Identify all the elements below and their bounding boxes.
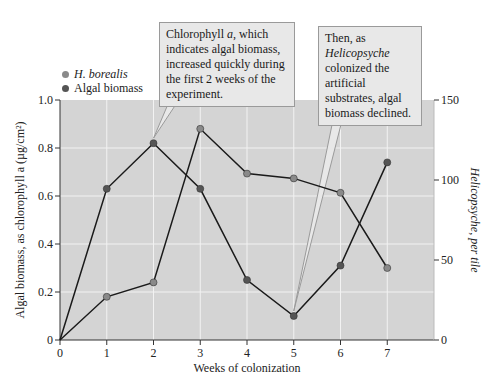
x-tick-label: 7 xyxy=(384,346,390,360)
y-tick-label-right: 0 xyxy=(441,333,447,347)
x-tick-label: 3 xyxy=(197,346,203,360)
annotation-text: Chlorophyll xyxy=(166,27,227,41)
y-tick-label-left: 0.2 xyxy=(38,285,53,299)
legend-marker-h-borealis xyxy=(62,71,69,78)
x-axis-label: Weeks of colonization xyxy=(194,361,301,375)
x-tick-label: 6 xyxy=(338,346,344,360)
data-point-h-borealis xyxy=(337,189,344,196)
data-point-algal-biomass xyxy=(103,185,110,192)
y-tick-label-left: 0.4 xyxy=(38,237,53,251)
annotation-helicopsyche: Then, as Helicopsyche colonized the arti… xyxy=(318,26,422,126)
y-axis-label-right: Helicopsyche, per tile xyxy=(468,167,482,274)
legend: H. borealis Algal biomass xyxy=(62,67,143,95)
data-point-algal-biomass xyxy=(384,159,391,166)
data-point-algal-biomass xyxy=(337,262,344,269)
x-tick-label: 4 xyxy=(244,346,250,360)
x-tick-label: 0 xyxy=(57,346,63,360)
annotation-text: Then, as xyxy=(325,31,366,45)
data-point-h-borealis xyxy=(150,279,157,286)
y-tick-label-right: 150 xyxy=(441,93,459,107)
data-point-h-borealis xyxy=(103,293,110,300)
legend-marker-algal-biomass xyxy=(62,85,69,92)
annotation-text: colonized the artificial substrates, alg… xyxy=(325,61,411,120)
legend-item-algal-biomass: Algal biomass xyxy=(62,81,143,95)
data-point-h-borealis xyxy=(244,170,251,177)
y-tick-label-left: 1.0 xyxy=(38,93,53,107)
y-axis-label-left: Algal biomass, as chlorophyll a (µg/cm²) xyxy=(13,121,27,318)
legend-label: Algal biomass xyxy=(74,81,143,95)
data-point-algal-biomass xyxy=(197,185,204,192)
data-point-h-borealis xyxy=(290,175,297,182)
legend-item-h-borealis: H. borealis xyxy=(62,67,143,81)
annotation-chlorophyll: Chlorophyll a, which indicates algal bio… xyxy=(159,22,295,107)
legend-label: H. borealis xyxy=(74,67,128,81)
annotation-text: Helicopsyche xyxy=(325,46,390,60)
data-point-algal-biomass xyxy=(244,277,251,284)
y-tick-label-right: 50 xyxy=(441,253,453,267)
x-tick-label: 5 xyxy=(291,346,297,360)
data-point-h-borealis xyxy=(197,125,204,132)
y-tick-label-left: 0.8 xyxy=(38,141,53,155)
x-tick-label: 1 xyxy=(104,346,110,360)
x-tick-label: 2 xyxy=(151,346,157,360)
data-point-algal-biomass xyxy=(290,313,297,320)
y-tick-label-right: 100 xyxy=(441,173,459,187)
data-point-algal-biomass xyxy=(150,140,157,147)
y-tick-label-left: 0 xyxy=(47,333,53,347)
data-point-h-borealis xyxy=(384,265,391,272)
y-tick-label-left: 0.6 xyxy=(38,189,53,203)
